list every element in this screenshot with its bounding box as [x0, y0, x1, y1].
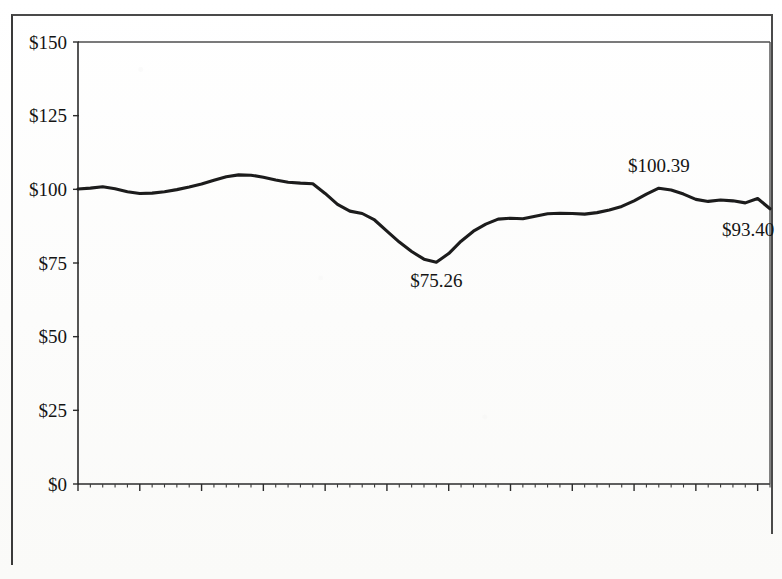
data-point-annotation: $75.26	[410, 270, 462, 291]
y-axis-labels: $0$25$50$75$100$125$150	[29, 32, 67, 495]
x-axis-ticks	[78, 484, 758, 491]
y-axis-tick-label: $0	[48, 474, 67, 495]
data-point-annotation: $100.39	[628, 155, 690, 176]
y-axis-tick-label: $50	[39, 326, 68, 347]
data-annotations: $75.26$100.39$93.40	[410, 155, 774, 291]
y-axis-tick-label: $100	[29, 179, 67, 200]
y-axis-tick-label: $125	[29, 105, 67, 126]
plot-frame	[78, 42, 770, 484]
chart-page: $0$25$50$75$100$125$150 1954年1959年1964年1…	[0, 0, 782, 579]
line-chart: $0$25$50$75$100$125$150 1954年1959年1964年1…	[0, 0, 782, 579]
data-series-line	[78, 175, 770, 262]
y-axis-tick-label: $150	[29, 32, 67, 53]
y-axis-tick-label: $25	[39, 400, 68, 421]
series-path	[78, 175, 770, 262]
data-point-annotation: $93.40	[722, 219, 774, 240]
y-axis-tick-label: $75	[39, 253, 68, 274]
